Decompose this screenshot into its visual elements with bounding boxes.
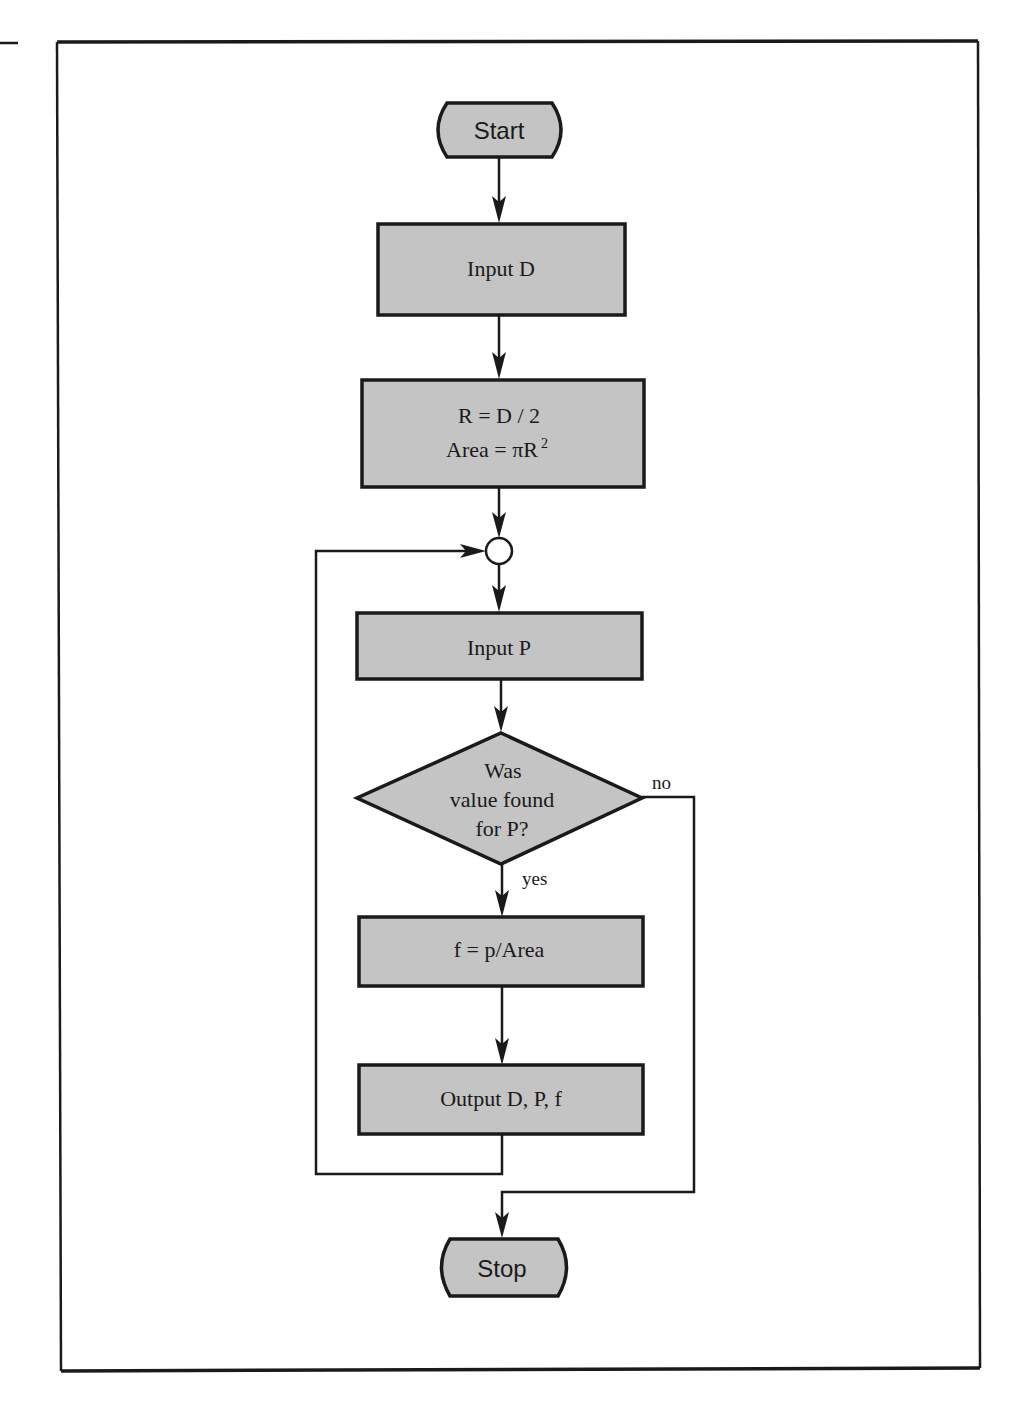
yes-label: yes [522,868,547,889]
decision-text-line-3: for P? [475,816,528,841]
output-node: Output D, P, f [359,1065,643,1134]
edge-input-d-to-compute [492,315,506,379]
compute-area-text: Area = πR2 [446,436,548,462]
edge-decision-yes: yes [495,864,547,917]
input-p-label: Input P [467,635,531,660]
input-d-node: Input D [378,224,625,315]
start-label: Start [474,117,525,144]
loop-connector [486,538,512,564]
stop-node: Stop [442,1239,567,1296]
decision-node: Was value found for P? [357,733,642,864]
flowchart: Start Input D R = D / 2 Area = πR2 Input… [0,0,1025,1418]
compute-area-node: R = D / 2 Area = πR2 [362,380,644,487]
edge-start-to-input-d [492,157,506,223]
output-label: Output D, P, f [440,1086,562,1111]
input-d-label: Input D [467,256,535,281]
edge-connector-to-input-p [492,564,506,612]
input-p-node: Input P [357,613,642,679]
compute-f-node: f = p/Area [359,917,643,986]
edge-input-p-to-decision [494,679,508,732]
compute-radius-text: R = D / 2 [458,403,540,428]
compute-f-label: f = p/Area [454,937,545,962]
start-node: Start [438,103,561,157]
decision-text-line-2: value found [450,787,554,812]
no-label: no [652,772,671,793]
edge-compute-f-to-output [495,986,509,1065]
edge-compute-to-connector [492,487,506,538]
stop-label: Stop [477,1255,526,1282]
decision-text-line-1: Was [484,758,521,783]
